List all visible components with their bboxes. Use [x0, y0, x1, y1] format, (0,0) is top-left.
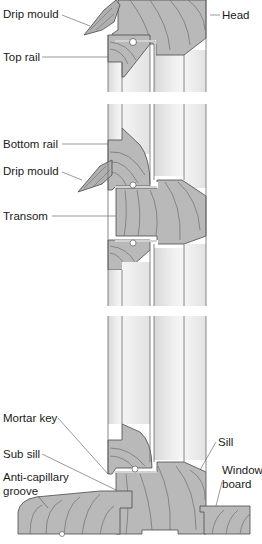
- label-anti-capillary-groove-line2: groove: [3, 485, 38, 498]
- label-window-board-line1: Window: [222, 464, 262, 477]
- break-gap-upper: [100, 93, 215, 103]
- label-sill: Sill: [218, 436, 233, 449]
- label-anti-capillary-groove-line1: Anti-capillary: [3, 471, 69, 484]
- label-transom: Transom: [3, 210, 48, 223]
- transom-section: [78, 104, 206, 306]
- label-mortar-key: Mortar key: [3, 412, 57, 425]
- break-gap-lower: [100, 306, 215, 316]
- label-bottom-rail: Bottom rail: [3, 138, 58, 151]
- label-drip-mould-top: Drip mould: [3, 8, 59, 21]
- label-sub-sill: Sub sill: [3, 448, 40, 461]
- label-window-board-line2: board: [222, 478, 251, 491]
- head-section: [84, 0, 206, 92]
- label-head: Head: [222, 9, 250, 22]
- label-top-rail: Top rail: [3, 51, 40, 64]
- sill-section: [18, 316, 250, 537]
- label-drip-mould-mid: Drip mould: [3, 165, 59, 178]
- window-section-diagram: [0, 0, 262, 544]
